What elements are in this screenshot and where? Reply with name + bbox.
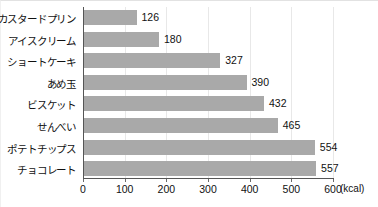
bar-row: 554 xyxy=(84,140,334,155)
bar xyxy=(84,118,278,133)
bar-series: 126180327390432465554557 xyxy=(84,7,334,179)
bar-row: 557 xyxy=(84,161,334,176)
plot-area: 126180327390432465554557 xyxy=(83,7,334,179)
bar xyxy=(84,75,247,90)
bar-row: 126 xyxy=(84,10,334,25)
calorie-bar-chart: カスタードプリンアイスクリームショートケーキあめ玉ビスケットせんべいポテトチップ… xyxy=(0,0,378,207)
bar xyxy=(84,96,264,111)
bar xyxy=(84,32,159,47)
bar-value-label: 126 xyxy=(142,10,160,25)
x-tick-label: 0 xyxy=(80,182,86,196)
category-axis-labels: カスタードプリンアイスクリームショートケーキあめ玉ビスケットせんべいポテトチップ… xyxy=(1,9,79,177)
bar-value-label: 432 xyxy=(269,96,287,111)
x-tick-label: 400 xyxy=(241,182,259,196)
category-label: あめ玉 xyxy=(47,77,76,92)
bar xyxy=(84,53,220,68)
bar xyxy=(84,161,316,176)
bar-row: 180 xyxy=(84,32,334,47)
bar-value-label: 465 xyxy=(283,118,301,133)
category-label: ポテトチップス xyxy=(7,142,76,157)
bar-value-label: 554 xyxy=(320,140,338,155)
x-tick-label: 100 xyxy=(116,182,134,196)
category-label: せんべい xyxy=(37,120,76,135)
x-tick-label: 500 xyxy=(283,182,301,196)
category-label: ショートケーキ xyxy=(7,55,76,70)
category-label: ビスケット xyxy=(27,98,76,113)
bar-value-label: 180 xyxy=(164,32,182,47)
category-label: チョコレート xyxy=(17,163,76,178)
bar-value-label: 390 xyxy=(252,75,270,90)
bar-row: 432 xyxy=(84,96,334,111)
bar-row: 390 xyxy=(84,75,334,90)
x-tick-label: 200 xyxy=(158,182,176,196)
bar xyxy=(84,140,315,155)
category-label: カスタードプリン xyxy=(0,12,76,27)
x-axis-tick-labels: 0100200300400500600 xyxy=(83,182,334,196)
bar-row: 327 xyxy=(84,53,334,68)
category-label: アイスクリーム xyxy=(8,34,76,49)
x-tick-label: 300 xyxy=(199,182,217,196)
bar xyxy=(84,10,137,25)
bar-row: 465 xyxy=(84,118,334,133)
bar-value-label: 327 xyxy=(225,53,243,68)
bar-value-label: 557 xyxy=(321,161,339,176)
x-axis-unit-label: (kcal) xyxy=(340,182,364,196)
